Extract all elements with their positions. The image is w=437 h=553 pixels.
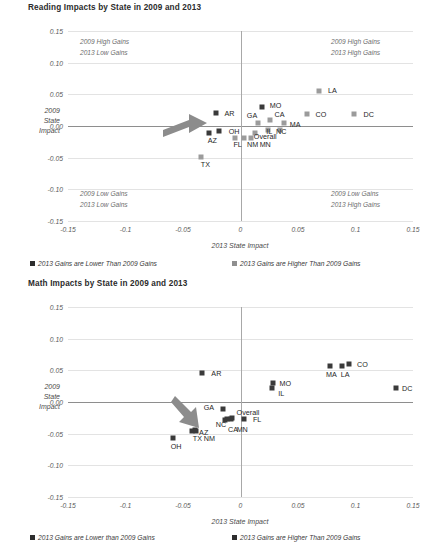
x-tick-label: -0.1 — [120, 502, 132, 509]
math-x-axis-title: 2013 State Impact — [212, 518, 269, 525]
y-tick-label: -0.10 — [32, 462, 63, 469]
data-point-label-dc: DC — [364, 109, 374, 118]
data-point-label-mo: MO — [270, 101, 282, 110]
data-point-mo — [259, 104, 264, 109]
y-tick-label: 0.15 — [32, 304, 63, 311]
data-point-label-il: IL — [278, 388, 284, 397]
legend-swatch-lower-icon — [30, 261, 35, 266]
math-chart-title: Math Impacts by State in 2009 and 2013 — [28, 279, 188, 288]
math-chart-panel: Math Impacts by State in 2009 and 2013 A… — [0, 276, 437, 553]
legend-swatch-higher-icon — [232, 261, 237, 266]
x-tick-label: 0.15 — [406, 502, 419, 509]
data-point-fl — [241, 416, 246, 421]
y-tick-label: 0.05 — [32, 91, 63, 98]
quadrant-note-line: 2009 High Gains — [80, 37, 129, 48]
y-tick-label: -0.15 — [32, 218, 63, 225]
y-tick-label: 0.10 — [32, 59, 63, 66]
x-tick-label: 0 — [239, 502, 243, 509]
y-tick-label: -0.05 — [32, 430, 63, 437]
math-y-axis-title: 2009 State Impact — [2, 382, 60, 412]
data-point-label-nm: NM — [247, 140, 258, 149]
x-tick-label: 0.1 — [351, 502, 360, 509]
y-tick-label: 0.00 — [32, 399, 63, 406]
zero-axis-vertical — [241, 31, 242, 221]
data-point-label-tx: TX — [201, 160, 210, 169]
data-point-label-la: LA — [341, 369, 350, 378]
reading-legend-label-lower: 2013 Gains are Lower Than 2009 Gains — [38, 260, 157, 267]
data-point-label-nm: NM — [204, 433, 215, 442]
data-point-label-ar: AR — [225, 109, 235, 118]
data-point-label-ma: MA — [326, 369, 337, 378]
zero-axis-vertical — [241, 307, 242, 497]
data-point-ma — [327, 364, 332, 369]
data-point-label-oh: OH — [171, 441, 182, 450]
data-point-ga — [256, 120, 261, 125]
quadrant-note-line: 2009 High Gains — [331, 37, 380, 48]
data-point-mn — [248, 136, 253, 141]
data-point-label-co: CO — [357, 360, 368, 369]
reading-y-axis-title: 2009 State Impact — [2, 106, 60, 136]
data-point-label-mn: MN — [237, 424, 248, 433]
quadrant-note-top-right: 2009 High Gains2013 High Gains — [331, 37, 380, 58]
quadrant-note-line: 2013 High Gains — [331, 200, 380, 211]
quadrant-note-line: 2013 Low Gains — [80, 200, 128, 211]
data-point-mo — [271, 380, 276, 385]
legend-swatch-lower-icon — [30, 535, 35, 540]
data-point-label-nc: NC — [216, 420, 226, 429]
callout-arrow-icon — [163, 113, 209, 147]
quadrant-note-line: 2009 Low Gains — [80, 189, 128, 200]
data-point-label-mn: MN — [260, 140, 271, 149]
reading-legend-item-lower: 2013 Gains are Lower Than 2009 Gains — [30, 260, 157, 267]
y-tick-label: -0.05 — [32, 154, 63, 161]
legend-swatch-higher-icon — [232, 535, 237, 540]
reading-chart-panel: Reading Impacts by State in 2009 and 201… — [0, 0, 437, 276]
quadrant-note-bottom-right: 2009 Low Gains2013 High Gains — [331, 189, 380, 210]
x-tick-label: -0.15 — [60, 226, 76, 233]
data-point-ar — [199, 371, 204, 376]
quadrant-note-line: 2013 High Gains — [331, 48, 380, 59]
x-tick-label: 0.1 — [351, 226, 360, 233]
x-tick-label: 0.05 — [291, 226, 304, 233]
reading-y-axis-title-line1: 2009 — [44, 107, 60, 114]
data-point-ma — [281, 120, 286, 125]
math-legend-item-lower: 2013 Gains are Lower than 2009 Gains — [30, 534, 155, 541]
data-point-mn — [228, 417, 233, 422]
x-tick-label: 0.15 — [406, 226, 419, 233]
data-point-label-tx: TX — [193, 433, 202, 442]
reading-legend-item-higher: 2013 Gains are Higher Than 2009 Gains — [232, 260, 360, 267]
gridline-horizontal — [68, 221, 413, 222]
data-point-label-mo: MO — [280, 378, 292, 387]
data-point-dc — [352, 111, 357, 116]
y-tick-label: -0.15 — [32, 494, 63, 501]
x-tick-label: -0.05 — [175, 226, 191, 233]
data-point-il — [269, 386, 274, 391]
quadrant-note-line: 2009 Low Gains — [331, 189, 380, 200]
data-point-ca — [267, 118, 272, 123]
data-point-label-co: CO — [316, 109, 327, 118]
gridline-horizontal — [68, 497, 413, 498]
data-point-label-ca: CA — [275, 110, 285, 119]
callout-arrow-icon — [171, 396, 217, 430]
data-point-nm — [241, 135, 246, 140]
data-point-label-la: LA — [328, 86, 337, 95]
data-point-co — [304, 111, 309, 116]
data-point-oh — [170, 436, 175, 441]
data-point-label-dc: DC — [402, 384, 412, 393]
data-point-label-ga: GA — [247, 110, 257, 119]
x-tick-label: -0.1 — [120, 226, 132, 233]
data-point-label-fl: FL — [253, 414, 261, 423]
data-point-label-ma: MA — [290, 120, 301, 129]
data-point-label-fl: FL — [233, 140, 241, 149]
reading-x-axis-title: 2013 State Impact — [212, 242, 269, 249]
x-tick-label: -0.05 — [175, 502, 191, 509]
quadrant-note-bottom-left: 2009 Low Gains2013 Low Gains — [80, 189, 128, 210]
y-tick-label: 0.10 — [32, 335, 63, 342]
math-legend-item-higher: 2013 Gains are Higher Than 2009 Gains — [232, 534, 360, 541]
data-point-dc — [394, 386, 399, 391]
data-point-ga — [220, 406, 225, 411]
quadrant-note-top-left: 2009 High Gains2013 Low Gains — [80, 37, 129, 58]
data-point-oh — [217, 128, 222, 133]
y-tick-label: 0.00 — [32, 123, 63, 130]
y-tick-label: 0.15 — [32, 28, 63, 35]
y-tick-label: -0.10 — [32, 186, 63, 193]
